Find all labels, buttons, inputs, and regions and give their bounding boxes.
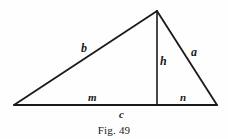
figure-container: b a h m n c Fig. 49 bbox=[0, 0, 228, 139]
label-altitude-h: h bbox=[160, 55, 167, 67]
triangle-diagram bbox=[0, 0, 228, 139]
label-segment-m: m bbox=[88, 92, 97, 103]
label-base-c: c bbox=[119, 109, 124, 120]
figure-caption: Fig. 49 bbox=[0, 125, 228, 136]
triangle-side-b-line bbox=[14, 11, 157, 105]
label-segment-n: n bbox=[180, 92, 186, 103]
label-side-b: b bbox=[81, 42, 87, 54]
label-side-a: a bbox=[191, 46, 197, 58]
